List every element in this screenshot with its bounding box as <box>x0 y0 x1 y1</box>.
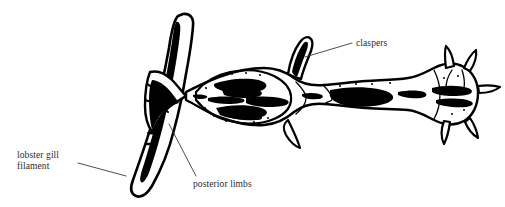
label-lobster-gill-filament: lobster gillfilament <box>17 150 59 172</box>
label-claspers: claspers <box>356 38 387 49</box>
parasite-on-gill-filament-illustration <box>0 0 505 207</box>
label-lobster-gill-filament-line1: lobster gill <box>17 150 59 160</box>
label-lobster-gill-filament-line2: filament <box>17 161 49 171</box>
label-posterior-limbs: posterior limbs <box>193 179 252 190</box>
